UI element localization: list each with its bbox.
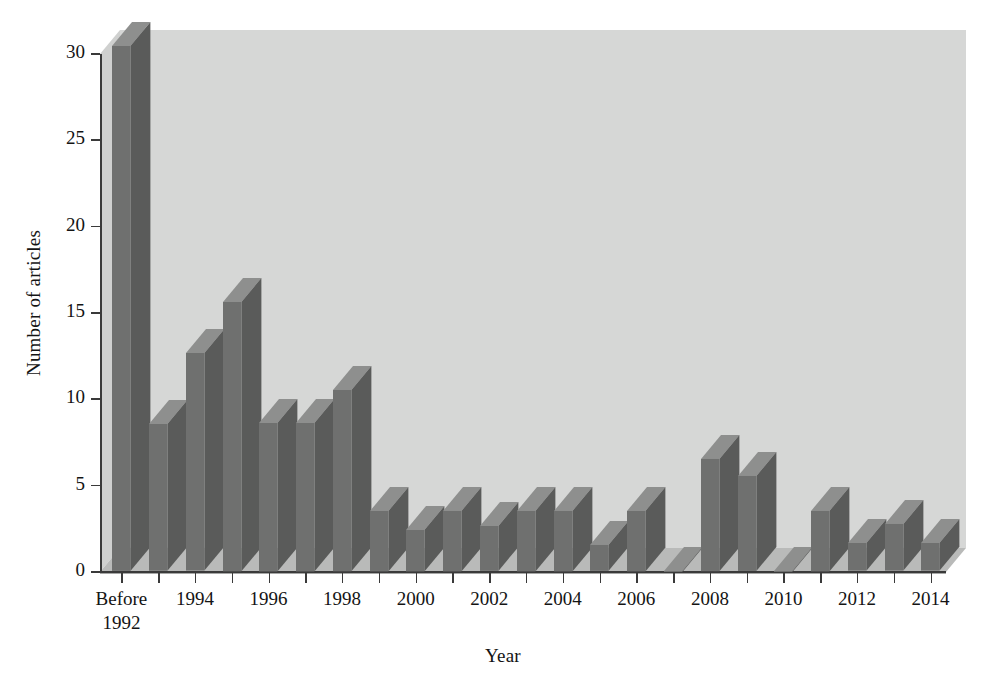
- y-axis-line: [100, 54, 102, 572]
- x-axis-tick: [563, 572, 564, 583]
- y-axis-tick: [91, 139, 100, 141]
- x-axis-tick: [673, 572, 674, 583]
- y-axis-tick-label: 10: [66, 386, 85, 408]
- y-axis-tick: [91, 312, 100, 314]
- x-axis-tick-label: 1994: [176, 588, 214, 610]
- y-axis-tick-label: 20: [66, 214, 85, 236]
- y-axis-tick: [91, 226, 100, 228]
- bar: [921, 517, 963, 575]
- x-axis-tick: [232, 572, 233, 583]
- x-axis-tick-label-line1: 1994: [176, 588, 214, 609]
- y-axis-tick-label: 30: [66, 41, 85, 63]
- x-axis-tick-label-line2: 1992: [96, 612, 148, 634]
- x-axis-tick-label-line1: Before: [96, 588, 148, 609]
- x-axis-tick: [269, 572, 270, 583]
- x-axis-tick-label-line1: 1998: [323, 588, 361, 609]
- x-axis-tick-label-line1: 2008: [691, 588, 729, 609]
- x-axis-tick: [158, 572, 159, 583]
- x-axis-tick-label: 2002: [470, 588, 508, 610]
- y-axis-tick: [91, 571, 100, 573]
- y-axis-title: Number of articles: [23, 193, 45, 413]
- x-axis-tick: [452, 572, 453, 583]
- x-axis-tick-label: 2014: [912, 588, 950, 610]
- x-axis-tick-label: 2006: [617, 588, 655, 610]
- x-axis-tick-label-line1: 2012: [838, 588, 876, 609]
- x-axis-tick: [894, 572, 895, 583]
- x-axis-tick: [857, 572, 858, 583]
- y-axis-tick-label: 0: [76, 559, 86, 581]
- x-axis-tick-label: 2010: [764, 588, 802, 610]
- x-axis-tick: [526, 572, 527, 583]
- y-axis-tick-label: 15: [66, 300, 85, 322]
- x-axis-tick: [747, 572, 748, 583]
- y-axis-tick: [91, 485, 100, 487]
- bar-chart-figure: Number of articles Year 051015202530 Bef…: [0, 0, 1006, 691]
- x-axis-tick: [783, 572, 784, 583]
- x-axis-tick-label: Before1992: [96, 588, 148, 634]
- x-axis-tick-label-line1: 2006: [617, 588, 655, 609]
- x-axis-tick-label-line1: 2004: [544, 588, 582, 609]
- x-axis-tick-label-line1: 2000: [397, 588, 435, 609]
- x-axis-tick: [489, 572, 490, 583]
- x-axis-tick: [195, 572, 196, 583]
- x-axis-tick: [710, 572, 711, 583]
- x-axis-tick: [379, 572, 380, 583]
- x-axis-tick: [600, 572, 601, 583]
- x-axis-tick-label: 2000: [397, 588, 435, 610]
- x-axis-tick: [416, 572, 417, 583]
- x-axis-tick-label-line1: 2010: [764, 588, 802, 609]
- plot-area: 051015202530 Before199219941996199820002…: [100, 30, 966, 575]
- x-axis-tick-label-line1: 1996: [250, 588, 288, 609]
- x-axis-tick-label: 2012: [838, 588, 876, 610]
- x-axis-tick-label-line1: 2014: [912, 588, 950, 609]
- y-axis-tick: [91, 53, 100, 55]
- x-axis-tick-label: 1996: [250, 588, 288, 610]
- y-axis-tick-label: 25: [66, 127, 85, 149]
- x-axis-tick-label: 2004: [544, 588, 582, 610]
- x-axis-tick-label: 1998: [323, 588, 361, 610]
- x-axis-tick-label: 2008: [691, 588, 729, 610]
- x-axis-tick: [342, 572, 343, 583]
- x-axis-tick: [636, 572, 637, 583]
- x-axis-tick: [931, 572, 932, 583]
- x-axis-tick-label-line1: 2002: [470, 588, 508, 609]
- x-axis-title: Year: [0, 645, 1006, 667]
- y-axis-tick: [91, 398, 100, 400]
- x-axis-tick: [820, 572, 821, 583]
- y-axis-tick-label: 5: [76, 473, 86, 495]
- x-axis-tick: [121, 572, 122, 583]
- x-axis-tick: [305, 572, 306, 583]
